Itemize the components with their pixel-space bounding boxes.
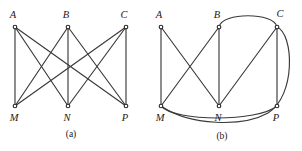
vertex-label-a-C: C — [120, 9, 128, 20]
vertex-label-a-N: N — [62, 112, 71, 123]
vertex-label-b-A: A — [155, 9, 163, 20]
vertex-a-A — [13, 25, 17, 29]
vertex-b-C — [275, 25, 279, 29]
vertex-b-B — [217, 25, 221, 29]
vertex-label-b-N: N — [213, 112, 222, 123]
vertex-label-a-P: P — [121, 112, 129, 123]
vertex-label-b-P: P — [272, 112, 280, 123]
edge-b-B-C — [219, 16, 277, 27]
vertex-a-C — [124, 25, 128, 29]
vertex-b-P — [275, 104, 279, 108]
panel-a: A B C M N P (a) — [9, 9, 129, 140]
vertex-a-N — [66, 104, 70, 108]
vertex-label-a-B: B — [63, 9, 70, 20]
vertex-b-A — [159, 25, 163, 29]
panel-b-edges — [161, 16, 289, 123]
figure-root: A B C M N P (a) — [0, 0, 302, 151]
caption-panel-a: (a) — [66, 129, 77, 140]
panel-b: A B C M N P (b) — [155, 8, 290, 142]
vertex-label-b-C: C — [276, 8, 284, 19]
edge-b-C-N — [219, 27, 277, 106]
edge-b-C-M — [161, 27, 289, 122]
caption-panel-b: (b) — [216, 131, 227, 142]
vertex-a-B — [66, 25, 70, 29]
vertex-a-M — [13, 104, 17, 108]
vertex-label-b-B: B — [214, 9, 221, 20]
vertex-label-a-M: M — [9, 112, 20, 123]
vertex-label-b-M: M — [155, 112, 166, 123]
vertex-label-a-A: A — [9, 9, 17, 20]
vertex-b-M — [159, 104, 163, 108]
vertex-a-P — [124, 104, 128, 108]
vertex-b-N — [217, 104, 221, 108]
graph-figure-svg: A B C M N P (a) — [0, 0, 302, 151]
panel-a-edges — [15, 27, 126, 106]
